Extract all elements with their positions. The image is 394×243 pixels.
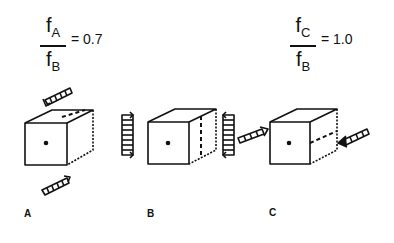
arrow-b-right-icon [223, 112, 234, 158]
panel-label-b: B [147, 208, 154, 219]
cube-c [270, 109, 337, 164]
cube-loading-diagram [0, 0, 394, 243]
cube-b [148, 109, 216, 164]
arrow-c-left-icon [238, 127, 268, 143]
arrow-b-left-icon [122, 112, 133, 158]
arrow-a-top-icon [43, 88, 72, 106]
panel-label-c: C [269, 207, 276, 218]
arrow-a-bottom-icon [42, 176, 70, 195]
arrow-c-right-icon [338, 129, 369, 147]
cube-a [25, 110, 93, 165]
panel-label-a: A [24, 208, 31, 219]
